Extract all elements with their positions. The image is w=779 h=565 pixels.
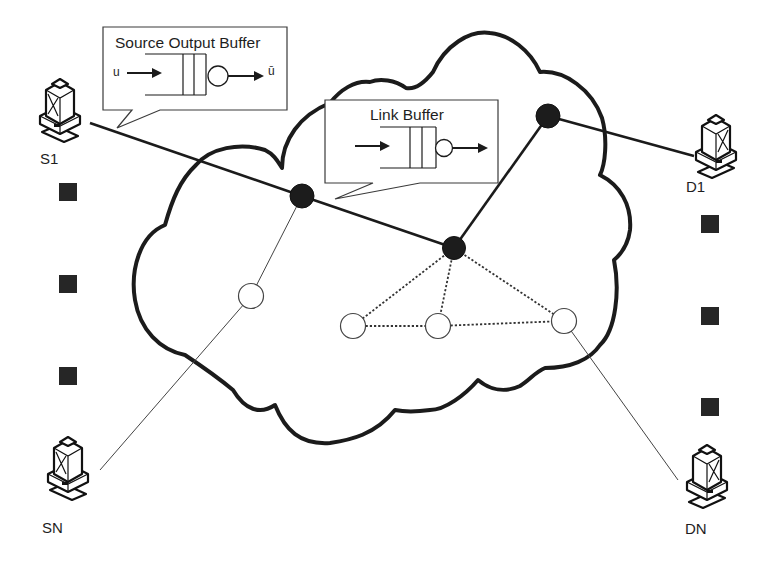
ellipsis-square-icon: [701, 398, 719, 416]
source-output-buffer-title: Source Output Buffer: [115, 34, 260, 51]
link-r2-w4: [454, 248, 564, 321]
server-icon: [436, 140, 453, 157]
link-r3-d1: [548, 116, 694, 156]
ellipsis-square-icon: [59, 367, 77, 385]
source-ellipsis-markers: [59, 183, 77, 385]
computer-icon: [687, 445, 727, 508]
ellipsis-square-icon: [701, 307, 719, 325]
computer-icon: [40, 79, 80, 142]
computer-icon: [48, 437, 88, 500]
host-label-s1: S1: [40, 150, 58, 167]
hollow-node-w2: [341, 314, 366, 339]
router-node-r1: [290, 184, 314, 208]
link-w3-w4: [438, 321, 564, 326]
hollow-node-w1: [239, 284, 264, 309]
link-r1-r2: [302, 196, 454, 248]
ellipsis-square-icon: [59, 275, 77, 293]
hollow-node-w4: [552, 309, 577, 334]
hollow-node-w3: [426, 314, 451, 339]
router-node-r2: [443, 237, 466, 260]
link-w1-sn: [100, 296, 251, 470]
link-w4-dn: [564, 321, 678, 480]
router-node-r3: [536, 104, 560, 128]
server-icon: [208, 66, 228, 86]
destination-ellipsis-markers: [701, 215, 719, 416]
link-s1-r1: [90, 123, 302, 196]
host-label-dn: DN: [685, 520, 707, 537]
output-label-u-bar: ū: [268, 64, 275, 78]
host-s1: S1: [40, 79, 80, 167]
input-label-u: u: [113, 65, 120, 79]
link-r1-w1: [251, 196, 302, 296]
host-label-sn: SN: [42, 519, 63, 536]
link-buffer-title: Link Buffer: [370, 106, 444, 123]
host-sn: SN: [42, 437, 88, 536]
host-dn: DN: [685, 445, 727, 537]
computer-icon: [696, 115, 736, 178]
ellipsis-square-icon: [701, 215, 719, 233]
link-buffer-callout: Link Buffer: [325, 100, 498, 199]
network-diagram: Source Output Buffer u ū Link Buffer: [0, 0, 779, 565]
host-label-d1: D1: [686, 178, 705, 195]
ellipsis-square-icon: [59, 183, 77, 201]
source-output-buffer-callout: Source Output Buffer u ū: [103, 27, 287, 128]
